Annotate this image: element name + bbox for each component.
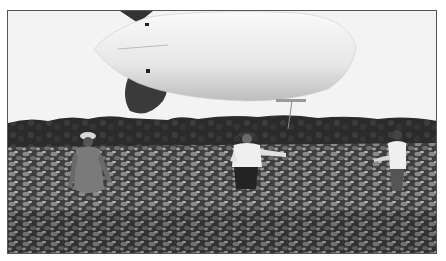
photo-scene [8,11,437,254]
photograph [7,10,437,254]
